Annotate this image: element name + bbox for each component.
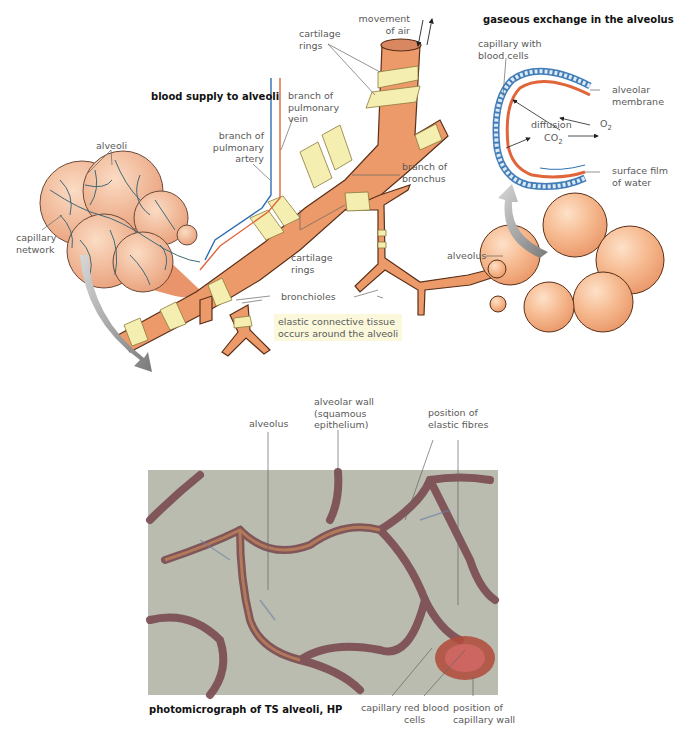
label-capillary-wall: position of capillary wall [453,702,515,725]
elastic-tissue-note: elastic connective tissue occurs around … [274,314,402,341]
label-photo-alveolus: alveolus [249,418,288,430]
label-movement-of-air: movement of air [358,13,410,36]
label-alveolus-sac: alveolus [447,250,486,262]
label-o2: O2 [600,118,612,134]
label-cartilage-rings-top: cartilage rings [299,28,341,51]
label-alveoli: alveoli [96,140,127,152]
label-pulmonary-vein: branch of pulmonary vein [288,90,339,125]
label-red-blood-cells: red blood cells [404,702,449,725]
label-branch-of-bronchus: branch of bronchus [402,161,447,184]
alveoli-cluster [40,151,200,297]
label-capillary-with-blood-cells: capillary with blood cells [478,38,542,61]
label-cartilage-rings-mid: cartilage rings [291,252,333,275]
photomicrograph-caption: photomicrograph of TS alveoli, HP [149,704,342,715]
label-diffusion: diffusion [531,119,572,131]
label-alveolar-wall: alveolar wall (squamous epithelium) [314,396,374,431]
label-capillary-network: capillary network [16,232,56,255]
air-movement-arrows [418,19,432,46]
label-co2: CO2 [544,132,563,148]
gas-exchange-title: gaseous exchange in the alveolus [483,14,674,25]
label-elastic-fibres: position of elastic fibres [428,407,488,430]
blood-supply-title: blood supply to alveoli [151,91,279,102]
label-surface-film-of-water: surface film of water [612,165,668,188]
label-alveolar-membrane: alveolar membrane [612,84,664,107]
photomicrograph [148,470,498,695]
label-pulmonary-artery: branch of pulmonary artery [212,130,264,165]
label-capillary: capillary [361,702,401,714]
label-bronchioles: bronchioles [281,291,336,303]
